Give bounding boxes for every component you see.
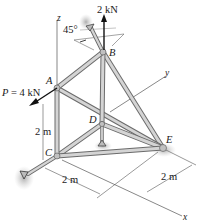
joint-c bbox=[54, 153, 60, 159]
dimension-label-y: 2 m bbox=[161, 172, 177, 183]
angle-ref-line-1 bbox=[74, 34, 124, 40]
angle-label-45: 45° bbox=[63, 25, 78, 36]
joint-label-d: D bbox=[89, 115, 97, 126]
joint-label-b: B bbox=[109, 48, 115, 59]
dimension-label-x: 2 m bbox=[62, 175, 78, 186]
dimension-label-height: 2 m bbox=[35, 127, 51, 138]
joint-label-a: A bbox=[46, 76, 52, 87]
joint-label-c: C bbox=[45, 148, 52, 159]
truss-drawing bbox=[0, 0, 199, 224]
y-axis-label: y bbox=[165, 69, 169, 79]
x-axis bbox=[62, 160, 182, 216]
joint-label-e: E bbox=[166, 135, 172, 146]
x-axis-label: x bbox=[183, 213, 187, 223]
joint-d bbox=[99, 121, 104, 126]
load-label-2kn: 2 kN bbox=[97, 5, 118, 16]
angle-arrow-45 bbox=[80, 40, 86, 42]
dim-ext-y bbox=[166, 150, 196, 165]
load-label-p: P = 4 kN bbox=[2, 88, 40, 99]
space-truss-figure: z y x 2 kN 45° P = 4 kN B A C D E 2 m 2 … bbox=[0, 0, 199, 224]
angle-ref-line-3 bbox=[112, 34, 124, 46]
z-axis-label: z bbox=[57, 14, 61, 24]
load-arrowhead-p bbox=[29, 98, 39, 106]
angle-ref-line-2 bbox=[74, 40, 94, 50]
joint-e bbox=[160, 145, 167, 152]
joint-b bbox=[100, 49, 106, 55]
